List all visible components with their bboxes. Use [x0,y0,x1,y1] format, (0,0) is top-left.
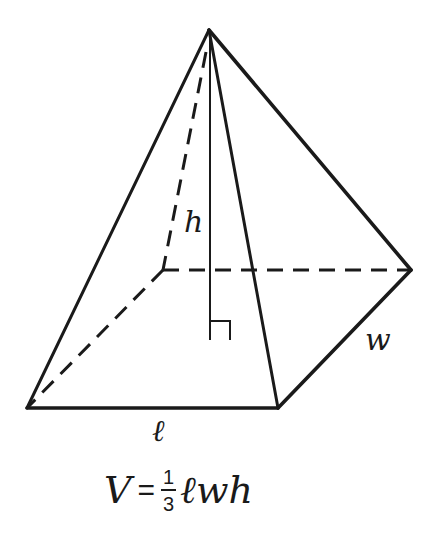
length-label: ℓ [152,416,165,446]
right-angle-marker [210,321,230,340]
formula-volume-symbol: V [104,471,131,509]
volume-formula: V = 1 3 ℓwh [104,462,253,518]
edge-apex-to-back-right [209,30,411,270]
formula-variables: ℓwh [180,471,253,509]
formula-equals-sign: = [137,475,155,505]
height-label: h [184,207,203,237]
fraction-numerator: 1 [161,467,176,491]
fraction-denominator: 3 [163,491,174,514]
edge-front-right-to-back-right [278,270,411,408]
edge-apex-to-front-left [27,30,209,408]
edge-back-left-to-front-left [27,270,163,408]
edge-apex-to-front-right [209,30,278,408]
formula-fraction: 1 3 [161,467,176,514]
width-label: w [365,325,391,355]
